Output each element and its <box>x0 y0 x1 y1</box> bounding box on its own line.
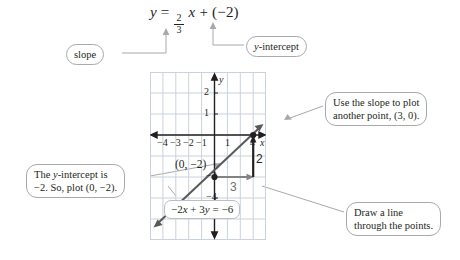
eq-post: = −6 <box>210 203 233 215</box>
figure-root: y = 2 3 x + (−2) <box>0 0 460 260</box>
y-axis-arrow-up <box>212 74 218 80</box>
callout-y-intercept-detail-line2: −2. So, plot (0, −2). <box>34 181 117 194</box>
callout-draw-line: Draw a line through the points. <box>346 202 441 236</box>
eq-mid: + 3 <box>188 203 205 215</box>
y-axis-arrow-down <box>212 232 218 238</box>
callout-y-intercept-detail: The y-intercept is −2. So, plot (0, −2). <box>26 164 125 198</box>
leader-slope-detail <box>290 106 323 118</box>
xtick-label-4: 4 <box>250 137 255 148</box>
leader-arrowhead-slope-detail <box>284 114 292 120</box>
y-axis-label: y <box>219 74 223 85</box>
leader-slope <box>122 34 166 53</box>
callout-y-intercept-rest: -intercept <box>259 41 299 52</box>
run-label: 3 <box>230 180 237 194</box>
callout-draw-line-line2: through the points. <box>354 219 433 232</box>
callout-y-intercept: y-intercept <box>246 36 307 57</box>
xtick-label-1: 1 <box>225 137 230 148</box>
xtick-label-neg2: −2 <box>183 137 194 148</box>
equation-standard-form-box: −2x + 3y = −6 <box>164 200 240 219</box>
eq-pre: −2 <box>171 203 183 215</box>
ytick-label-2: 2 <box>204 86 209 97</box>
ytick-label-neg3: −3 <box>206 170 217 181</box>
xtick-label-neg4: −4 <box>157 137 168 148</box>
callout-draw-line-line1: Draw a line <box>354 206 433 219</box>
leader-arrowhead-slope <box>163 28 170 35</box>
xtick-label-neg1: −1 <box>196 137 207 148</box>
line1-pre: The <box>34 169 53 180</box>
rise-label: 2 <box>256 152 263 166</box>
line1-post: -intercept is <box>58 169 108 180</box>
leader-draw-line <box>262 186 344 212</box>
callout-slope-detail-line1: Use the slope to plot <box>333 96 419 109</box>
callout-slope-detail: Use the slope to plot another point, (3,… <box>325 92 427 126</box>
callout-slope-label: slope <box>74 49 96 60</box>
point-label-y-intercept: (0, −2) <box>175 158 206 170</box>
leader-arrowhead-y-intercept <box>210 22 217 29</box>
xtick-label-neg3: −3 <box>170 137 181 148</box>
callout-slope: slope <box>66 44 104 65</box>
ytick-label-1: 1 <box>204 107 209 118</box>
coordinate-plane: 2 1 −3 −4 −4 −3 −2 −1 1 4 y x (0, −2) 3 … <box>150 72 266 240</box>
leader-y-intercept <box>213 28 244 45</box>
callout-y-intercept-detail-line1: The y-intercept is <box>34 168 117 181</box>
x-axis-label: x <box>260 137 264 148</box>
callout-slope-detail-line2: another point, (3, 0). <box>333 109 419 122</box>
